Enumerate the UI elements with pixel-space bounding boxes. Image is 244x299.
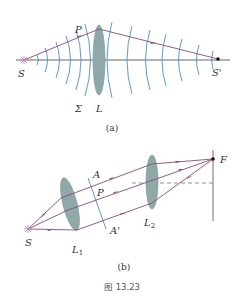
light-ray — [24, 29, 218, 60]
label-lens2: L2 — [143, 217, 155, 230]
subcaption-a: (a) — [106, 123, 118, 133]
focus-point-icon — [211, 157, 215, 161]
label-plane-a: A — [92, 169, 100, 180]
source-star-icon — [20, 56, 28, 64]
plane-aa — [88, 178, 106, 229]
source-star-icon — [24, 225, 32, 233]
label-focus: F — [219, 154, 228, 165]
label-source-b: S — [25, 237, 32, 248]
label-lens: L — [95, 103, 103, 114]
label-image: S' — [212, 67, 222, 78]
label-point-p-b: P — [96, 187, 104, 198]
diagram-canvas: S S' P Σ L (a) — [0, 0, 244, 299]
lens-icon — [93, 25, 105, 95]
subcaption-b: (b) — [118, 262, 131, 272]
lens-l1-icon — [57, 176, 84, 232]
label-point-p: P — [74, 24, 82, 35]
figure-caption: 图 13.23 — [104, 282, 140, 292]
image-point-icon — [216, 57, 220, 61]
figure-b: S L1 L2 A P A' F (b) — [24, 150, 228, 272]
label-plane-a-prime: A' — [109, 225, 120, 236]
label-source: S — [18, 68, 25, 79]
figure-a: S S' P Σ L (a) — [16, 22, 230, 133]
label-lens1: L1 — [71, 244, 83, 257]
light-rays — [28, 159, 213, 230]
label-wavefront: Σ — [74, 103, 83, 114]
